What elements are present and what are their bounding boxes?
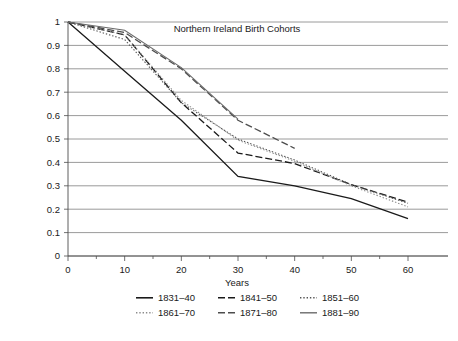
chart-container: 00.10.20.30.40.50.60.70.80.91 0102030405… [0, 0, 458, 341]
x-axis-tick-labels: 0102030405060 [65, 264, 413, 275]
legend-label: 1841–50 [240, 292, 277, 303]
birth-cohort-survival-line-chart: 00.10.20.30.40.50.60.70.80.91 0102030405… [0, 0, 458, 341]
y-axis-tick-label: 0.5 [47, 133, 60, 144]
chart-legend: 1831–401841–501851–601861–701871–801881–… [136, 292, 359, 318]
y-axis-tick-label: 1 [55, 16, 60, 27]
x-axis [68, 256, 448, 261]
series-line-1881-90 [68, 22, 238, 119]
series-line-1871-80 [68, 22, 295, 148]
x-axis-tick-label: 50 [346, 264, 357, 275]
y-axis-tick-label: 0.6 [47, 110, 60, 121]
y-axis-tick-label: 0 [55, 250, 60, 261]
y-axis-tick-label: 0.7 [47, 87, 60, 98]
legend-item[interactable]: 1861–70 [136, 307, 195, 318]
legend-label: 1881–90 [322, 307, 359, 318]
x-axis-tick-label: 20 [176, 264, 187, 275]
chart-title: Northern Ireland Birth Cohorts [174, 23, 301, 34]
x-axis-tick-label: 40 [289, 264, 300, 275]
x-axis-title: Years [225, 277, 249, 288]
legend-label: 1861–70 [158, 307, 195, 318]
y-axis-tick-label: 0.2 [47, 204, 60, 215]
legend-label: 1851–60 [322, 292, 359, 303]
x-axis-tick-label: 0 [65, 264, 70, 275]
legend-item[interactable]: 1841–50 [218, 292, 277, 303]
x-axis-tick-label: 10 [119, 264, 130, 275]
y-axis-tick-label: 0.1 [47, 227, 60, 238]
legend-item[interactable]: 1881–90 [300, 307, 359, 318]
series-line-1861-70 [68, 22, 408, 207]
legend-item[interactable]: 1831–40 [136, 292, 195, 303]
legend-label: 1831–40 [158, 292, 195, 303]
x-axis-tick-label: 30 [233, 264, 244, 275]
y-axis-tick-label: 0.3 [47, 180, 60, 191]
x-axis-tick-label: 60 [403, 264, 414, 275]
series-line-1841-50 [68, 22, 408, 202]
data-series [68, 22, 408, 219]
y-axis-tick-label: 0.4 [47, 157, 60, 168]
y-axis-tick-label: 0.9 [47, 40, 60, 51]
y-axis [64, 22, 68, 256]
legend-item[interactable]: 1851–60 [300, 292, 359, 303]
y-axis-tick-labels: 00.10.20.30.40.50.60.70.80.91 [47, 16, 60, 261]
y-axis-tick-label: 0.8 [47, 63, 60, 74]
legend-label: 1871–80 [240, 307, 277, 318]
gridlines [68, 22, 448, 256]
legend-item[interactable]: 1871–80 [218, 307, 277, 318]
